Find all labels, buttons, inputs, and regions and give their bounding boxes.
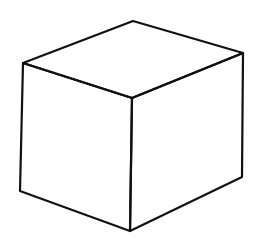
cube-right-face <box>130 53 243 231</box>
cube-top-face <box>23 21 243 98</box>
cube-drawing <box>0 0 260 238</box>
cube-left-face <box>20 63 132 231</box>
